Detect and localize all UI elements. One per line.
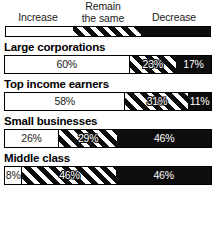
bar-segment-value: 60% [57,59,77,70]
bar-segment-increase: 8% [5,167,21,184]
row-label: Middle class [4,148,212,166]
row-label: Top income earners [4,74,212,92]
legend-swatch-remain-the-same [73,27,140,36]
bar-segment-decrease: 17% [176,56,211,73]
row-label: Large corporations [4,37,212,55]
legend-label-increase: Increase [6,12,70,24]
bar-segment-increase: 60% [5,56,129,73]
bar-segment-value: 8% [6,170,21,181]
bar-segment-remain-the-same: 23% [129,56,176,73]
bar-segment-remain-the-same: 31% [124,93,188,110]
legend-swatch-decrease [141,27,210,36]
stacked-bar-chart: Increase Remain the same Decrease Large … [0,0,216,231]
bar-segment-increase: 58% [5,93,124,110]
bar-segment-value: 26% [21,133,41,144]
bar-segment-value: 17% [183,59,203,70]
bar-segment-decrease: 11% [188,93,211,110]
legend-label-remain-line1: Remain [66,1,140,13]
chart-row: Middle class8%46%46% [4,148,212,185]
bar-segment-value: 11% [190,96,210,107]
legend-label-remain-line2: the same [66,13,140,25]
bar-segment-value: 46% [153,170,173,181]
legend-label-decrease: Decrease [138,12,210,24]
chart-legend: Increase Remain the same Decrease [4,0,212,25]
bar-segment-value: 58% [55,96,75,107]
legend-swatch-bar [5,26,211,37]
legend-label-remain-the-same: Remain the same [66,1,140,24]
bar-segment-value: 46% [154,133,174,144]
chart-row: Large corporations60%23%17% [4,37,212,74]
chart-rows: Large corporations60%23%17%Top income ea… [4,37,212,185]
row-label: Small businesses [4,111,212,129]
bar-segment-value: 46% [59,170,79,181]
bar-segment-decrease: 46% [117,130,211,147]
bar-segment-value: 29% [78,133,98,144]
bar-segment-value: 31% [147,96,167,107]
bar-segment-value: 23% [143,59,163,70]
chart-row: Small businesses26%29%46% [4,111,212,148]
bar-segment-increase: 26% [5,130,58,147]
row-bar: 58%31%11% [4,92,212,111]
bar-segment-remain-the-same: 46% [21,167,116,184]
bar-segment-decrease: 46% [116,167,211,184]
row-bar: 60%23%17% [4,55,212,74]
bar-segment-remain-the-same: 29% [58,130,117,147]
legend-swatch-increase [6,27,73,36]
row-bar: 8%46%46% [4,166,212,185]
row-bar: 26%29%46% [4,129,212,148]
chart-row: Top income earners58%31%11% [4,74,212,111]
